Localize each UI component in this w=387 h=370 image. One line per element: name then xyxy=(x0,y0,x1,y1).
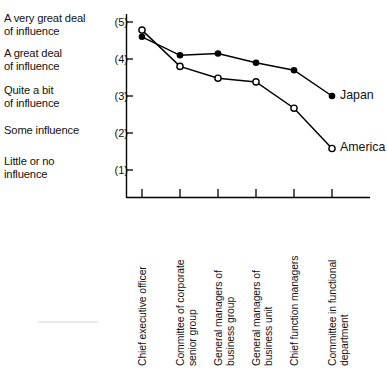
x-category-label-1: Committee of corporate senior group xyxy=(175,216,199,366)
series-label-america: America xyxy=(340,141,385,154)
x-axis-ticks xyxy=(142,189,332,198)
scan-artifact xyxy=(38,321,98,323)
series-label-japan: Japan xyxy=(340,89,374,102)
series-line-japan xyxy=(142,37,332,96)
series-markers-japan xyxy=(139,34,336,100)
x-category-label-3: General managers of business unit xyxy=(251,216,275,366)
x-category-label-4: Chief function managers xyxy=(289,216,301,366)
series-line-america xyxy=(142,30,332,148)
chart-container: A very great deal of influence A great d… xyxy=(0,0,387,370)
x-category-label-5: Committee in functional department xyxy=(327,216,351,366)
x-category-label-0: Chief executive officer xyxy=(137,216,149,366)
y-axis-ticks xyxy=(127,22,134,170)
series-markers-america xyxy=(139,27,335,152)
x-category-label-2: General managers of business group xyxy=(213,216,237,366)
